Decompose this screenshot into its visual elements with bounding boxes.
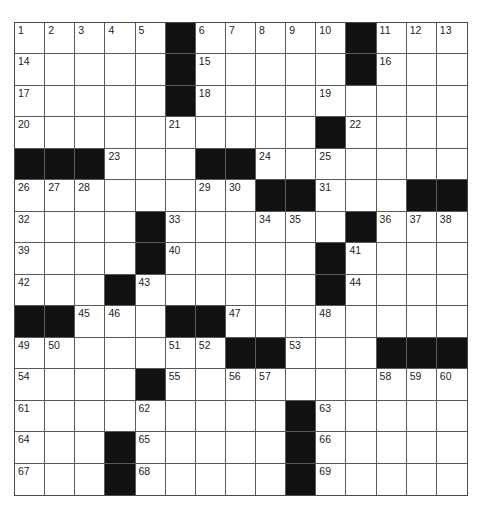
grid-cell[interactable]: 66 — [316, 432, 346, 463]
grid-cell[interactable]: 4 — [105, 23, 135, 54]
grid-cell[interactable] — [226, 54, 256, 85]
grid-cell[interactable] — [75, 212, 105, 243]
grid-cell[interactable]: 32 — [15, 212, 45, 243]
grid-cell[interactable] — [105, 243, 135, 274]
grid-cell[interactable] — [256, 54, 286, 85]
grid-cell[interactable]: 1 — [15, 23, 45, 54]
grid-cell[interactable] — [105, 369, 135, 400]
grid-cell[interactable]: 52 — [196, 338, 226, 369]
grid-cell[interactable] — [196, 275, 226, 306]
grid-cell[interactable] — [45, 86, 75, 117]
grid-cell[interactable]: 13 — [437, 23, 467, 54]
grid-cell[interactable] — [166, 432, 196, 463]
grid-cell[interactable] — [286, 243, 316, 274]
grid-cell[interactable] — [407, 243, 437, 274]
grid-cell[interactable] — [75, 275, 105, 306]
grid-cell[interactable] — [407, 86, 437, 117]
grid-cell[interactable] — [105, 117, 135, 148]
grid-cell[interactable] — [377, 117, 407, 148]
grid-cell[interactable] — [437, 86, 467, 117]
grid-cell[interactable]: 10 — [316, 23, 346, 54]
grid-cell[interactable]: 16 — [377, 54, 407, 85]
grid-cell[interactable]: 47 — [226, 306, 256, 337]
grid-cell[interactable] — [407, 275, 437, 306]
grid-cell[interactable] — [166, 464, 196, 495]
grid-cell[interactable]: 27 — [45, 180, 75, 211]
grid-cell[interactable]: 20 — [15, 117, 45, 148]
grid-cell[interactable] — [105, 180, 135, 211]
grid-cell[interactable]: 44 — [346, 275, 376, 306]
grid-cell[interactable]: 63 — [316, 401, 346, 432]
grid-cell[interactable]: 2 — [45, 23, 75, 54]
grid-cell[interactable]: 36 — [377, 212, 407, 243]
grid-cell[interactable]: 34 — [256, 212, 286, 243]
grid-cell[interactable] — [346, 401, 376, 432]
grid-cell[interactable]: 49 — [15, 338, 45, 369]
grid-cell[interactable] — [196, 432, 226, 463]
grid-cell[interactable] — [166, 275, 196, 306]
grid-cell[interactable] — [346, 306, 376, 337]
grid-cell[interactable] — [166, 401, 196, 432]
grid-cell[interactable]: 43 — [136, 275, 166, 306]
grid-cell[interactable] — [377, 464, 407, 495]
grid-cell[interactable]: 15 — [196, 54, 226, 85]
grid-cell[interactable]: 69 — [316, 464, 346, 495]
grid-cell[interactable] — [75, 117, 105, 148]
grid-cell[interactable]: 68 — [136, 464, 166, 495]
grid-cell[interactable] — [377, 401, 407, 432]
grid-cell[interactable] — [226, 401, 256, 432]
grid-cell[interactable] — [346, 149, 376, 180]
grid-cell[interactable]: 65 — [136, 432, 166, 463]
grid-cell[interactable] — [136, 180, 166, 211]
grid-cell[interactable] — [75, 243, 105, 274]
grid-cell[interactable] — [196, 212, 226, 243]
grid-cell[interactable]: 55 — [166, 369, 196, 400]
grid-cell[interactable]: 3 — [75, 23, 105, 54]
grid-cell[interactable]: 5 — [136, 23, 166, 54]
grid-cell[interactable]: 33 — [166, 212, 196, 243]
grid-cell[interactable] — [407, 464, 437, 495]
grid-cell[interactable]: 24 — [256, 149, 286, 180]
grid-cell[interactable] — [286, 369, 316, 400]
grid-cell[interactable] — [226, 212, 256, 243]
grid-cell[interactable]: 37 — [407, 212, 437, 243]
grid-cell[interactable] — [407, 401, 437, 432]
grid-cell[interactable]: 7 — [226, 23, 256, 54]
grid-cell[interactable] — [346, 369, 376, 400]
grid-cell[interactable] — [256, 401, 286, 432]
grid-cell[interactable] — [75, 86, 105, 117]
grid-cell[interactable] — [256, 243, 286, 274]
grid-cell[interactable] — [45, 275, 75, 306]
grid-cell[interactable] — [196, 243, 226, 274]
grid-cell[interactable] — [437, 306, 467, 337]
grid-cell[interactable] — [346, 86, 376, 117]
grid-cell[interactable]: 35 — [286, 212, 316, 243]
grid-cell[interactable] — [105, 54, 135, 85]
grid-cell[interactable] — [75, 369, 105, 400]
grid-cell[interactable] — [437, 275, 467, 306]
grid-cell[interactable] — [256, 464, 286, 495]
grid-cell[interactable] — [316, 369, 346, 400]
grid-cell[interactable] — [75, 338, 105, 369]
grid-cell[interactable] — [286, 54, 316, 85]
grid-cell[interactable] — [136, 149, 166, 180]
grid-cell[interactable]: 59 — [407, 369, 437, 400]
grid-cell[interactable] — [316, 54, 346, 85]
grid-cell[interactable]: 40 — [166, 243, 196, 274]
grid-cell[interactable] — [316, 212, 346, 243]
grid-cell[interactable] — [407, 306, 437, 337]
grid-cell[interactable] — [45, 369, 75, 400]
grid-cell[interactable]: 21 — [166, 117, 196, 148]
grid-cell[interactable] — [166, 149, 196, 180]
grid-cell[interactable] — [437, 432, 467, 463]
grid-cell[interactable]: 19 — [316, 86, 346, 117]
grid-cell[interactable] — [256, 275, 286, 306]
grid-cell[interactable] — [346, 432, 376, 463]
grid-cell[interactable] — [256, 432, 286, 463]
grid-cell[interactable] — [45, 117, 75, 148]
grid-cell[interactable]: 8 — [256, 23, 286, 54]
grid-cell[interactable]: 45 — [75, 306, 105, 337]
grid-cell[interactable] — [437, 54, 467, 85]
grid-cell[interactable]: 22 — [346, 117, 376, 148]
grid-cell[interactable] — [226, 86, 256, 117]
